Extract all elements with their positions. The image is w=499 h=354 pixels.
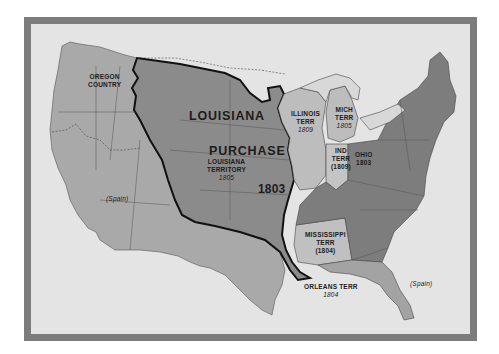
map-paper: OREGONCOUNTRY LOUISIANA PURCHASE LOUISIA… <box>31 24 470 334</box>
purchase-year-label: 1803 <box>258 182 286 196</box>
orleans-territory-label: ORLEANS TERR1804 <box>304 283 358 299</box>
louisiana-territory-label: LOUISIANATERRITORY 1805 <box>207 158 246 182</box>
michigan-territory-label: MICHTERR 1805 <box>335 106 354 130</box>
us-map-graphic <box>31 24 470 334</box>
spain-florida-label: (Spain) <box>410 280 432 288</box>
illinois-territory-label: ILLINOISTERR 1809 <box>291 110 320 134</box>
mississippi-territory-label: MISSISSIPPITERR (1804) <box>305 231 346 255</box>
ohio-label: OHIO1803 <box>355 151 372 167</box>
louisiana-label: LOUISIANA <box>189 109 265 123</box>
oregon-country-label: OREGONCOUNTRY <box>88 73 121 89</box>
spain-southwest-label: (Spain) <box>106 195 128 203</box>
indiana-territory-label: INDTERR (1809) <box>331 147 351 171</box>
purchase-label: PURCHASE <box>209 144 286 158</box>
